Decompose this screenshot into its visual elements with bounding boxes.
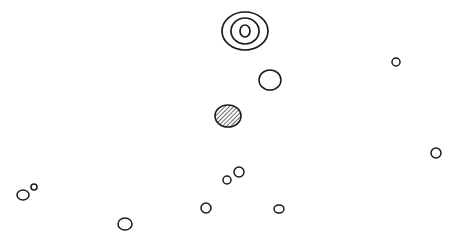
circle-icon [118, 218, 132, 230]
concentric-circles-icon [222, 12, 268, 50]
circle-icon [274, 205, 284, 213]
circle-icon [431, 148, 441, 158]
hatched-ellipse [215, 105, 241, 127]
sketch-canvas [0, 0, 458, 246]
circle-icon [223, 176, 231, 184]
ring-1 [231, 18, 259, 44]
ring-2 [240, 25, 250, 37]
circle-icon [392, 58, 400, 66]
circle-icon [31, 184, 37, 190]
circle-icon [201, 203, 211, 213]
hatched-circle-icon [215, 105, 241, 127]
circle-icon [17, 190, 29, 200]
circle-icon [259, 70, 281, 90]
small-circles [17, 58, 441, 230]
circle-icon [234, 167, 244, 177]
